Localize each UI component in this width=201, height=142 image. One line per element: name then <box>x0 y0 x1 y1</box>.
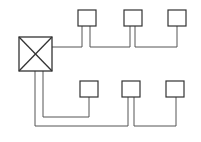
bottom-node-3 <box>166 81 184 97</box>
connector-lines <box>35 26 177 126</box>
bottom-nodes <box>80 81 184 97</box>
line-hub-to-top-1 <box>52 26 82 47</box>
line-top-1-to-top-2 <box>90 26 130 47</box>
bottom-node-2 <box>122 81 140 97</box>
bottom-node-1 <box>80 81 98 97</box>
top-nodes <box>78 10 186 26</box>
top-node-2 <box>124 10 142 26</box>
top-node-3 <box>168 10 186 26</box>
hub-node <box>19 37 52 71</box>
line-bottom-2-to-bottom-3 <box>134 97 176 126</box>
line-top-2-to-top-3 <box>135 26 177 47</box>
top-node-1 <box>78 10 96 26</box>
network-diagram <box>0 0 201 142</box>
line-hub-to-bottom-2 <box>35 71 128 126</box>
